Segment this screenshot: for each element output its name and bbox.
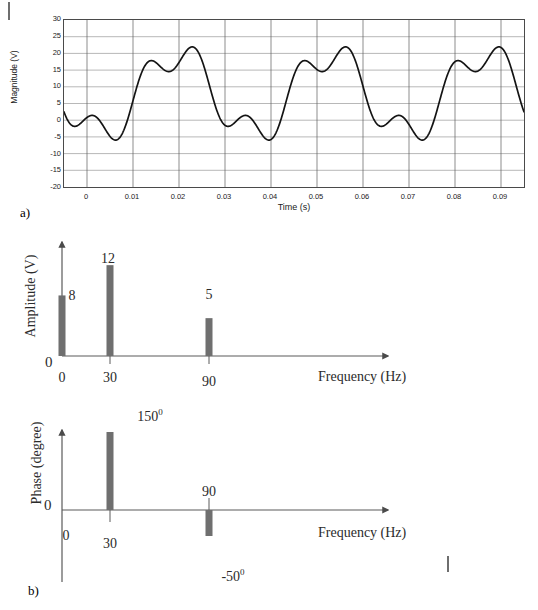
figure-phase-spectrum: Phase (degree) 0 0 30 90 1500 -500 Frequ… — [0, 400, 538, 605]
waveform-svg — [64, 20, 524, 187]
x-tick-label-90: 90 — [189, 484, 229, 500]
bar-value-150-number: 150 — [137, 409, 158, 424]
y-tick-label: 0 — [35, 116, 61, 124]
y-axis-label-waveform: Magnitude (V) — [9, 32, 19, 122]
x-tick-label: 0.08 — [434, 192, 474, 201]
x-axis-label-waveform: Time (s) — [63, 202, 525, 212]
phase-bar — [107, 432, 114, 510]
caption-a: a) — [20, 205, 30, 221]
x-axis-label-phase: Frequency (Hz) — [318, 525, 406, 541]
y-tick-label: 10 — [35, 82, 61, 90]
x-tick-label-30: 30 — [90, 370, 130, 386]
y-tick-label: 5 — [35, 99, 61, 107]
y-axis-label-amplitude: Amplitude (V) — [23, 236, 39, 356]
x-tick-label: 0.01 — [112, 192, 152, 201]
bar-value-label-150: 1500 — [128, 407, 172, 425]
spectrum-bar — [59, 295, 66, 356]
x-tick-label: 0.05 — [296, 192, 336, 201]
x-tick-label: 0.04 — [250, 192, 290, 201]
bar-value-minus50-number: -50 — [221, 569, 240, 584]
figure-amplitude-spectrum: Amplitude (V) 0 0 30 90 8 12 5 Frequency… — [0, 228, 538, 388]
x-tick-label: 0.09 — [480, 192, 520, 201]
y-tick-label: 15 — [35, 66, 61, 74]
x-tick-label: 0.06 — [342, 192, 382, 201]
spectrum-bar — [107, 265, 114, 356]
x-tick-label-90: 90 — [189, 374, 229, 390]
y-tick-label: -15 — [35, 166, 61, 174]
phase-bar — [206, 510, 213, 536]
caption-b: b) — [28, 583, 39, 599]
amplitude-bars — [59, 265, 213, 356]
degree-symbol-icon: 0 — [158, 407, 163, 417]
phase-spectrum-svg — [0, 400, 538, 605]
bar-value-label-minus50: -500 — [211, 567, 255, 585]
y-tick-label: -5 — [35, 133, 61, 141]
x-tick-label-0: 0 — [42, 370, 82, 386]
x-tick-label: 0.07 — [388, 192, 428, 201]
bar-value-label-12: 12 — [86, 251, 130, 267]
y-axis-tick-labels-waveform: 30 25 20 15 10 5 0 -5 -10 -15 -20 — [31, 10, 61, 200]
x-tick-label-30: 30 — [90, 536, 130, 552]
amplitude-spectrum-svg — [0, 228, 538, 388]
y-axis-origin-label: 0 — [44, 497, 52, 514]
x-tick-label: 0 — [66, 192, 106, 201]
bar-value-label-5: 5 — [187, 287, 231, 303]
spectrum-bar — [206, 318, 213, 356]
degree-symbol-icon: 0 — [240, 567, 245, 577]
y-tick-label: 25 — [35, 32, 61, 40]
y-axis-label-phase: Phase (degree) — [29, 398, 45, 528]
y-tick-label: -20 — [35, 183, 61, 191]
figure-a-time-waveform: Magnitude (V) 30 25 20 15 10 5 0 -5 -10 … — [0, 10, 538, 210]
x-tick-label: 0.03 — [204, 192, 244, 201]
waveform-plot-area — [63, 19, 525, 188]
x-tick-label-0: 0 — [46, 528, 86, 544]
x-axis-label-amplitude: Frequency (Hz) — [318, 369, 406, 385]
y-axis-origin-label: 0 — [45, 354, 53, 371]
y-tick-label: -10 — [35, 150, 61, 158]
bar-value-label-8: 8 — [50, 288, 94, 304]
x-tick-label: 0.02 — [158, 192, 198, 201]
y-tick-label: 20 — [35, 49, 61, 57]
y-tick-label: 30 — [35, 15, 61, 23]
